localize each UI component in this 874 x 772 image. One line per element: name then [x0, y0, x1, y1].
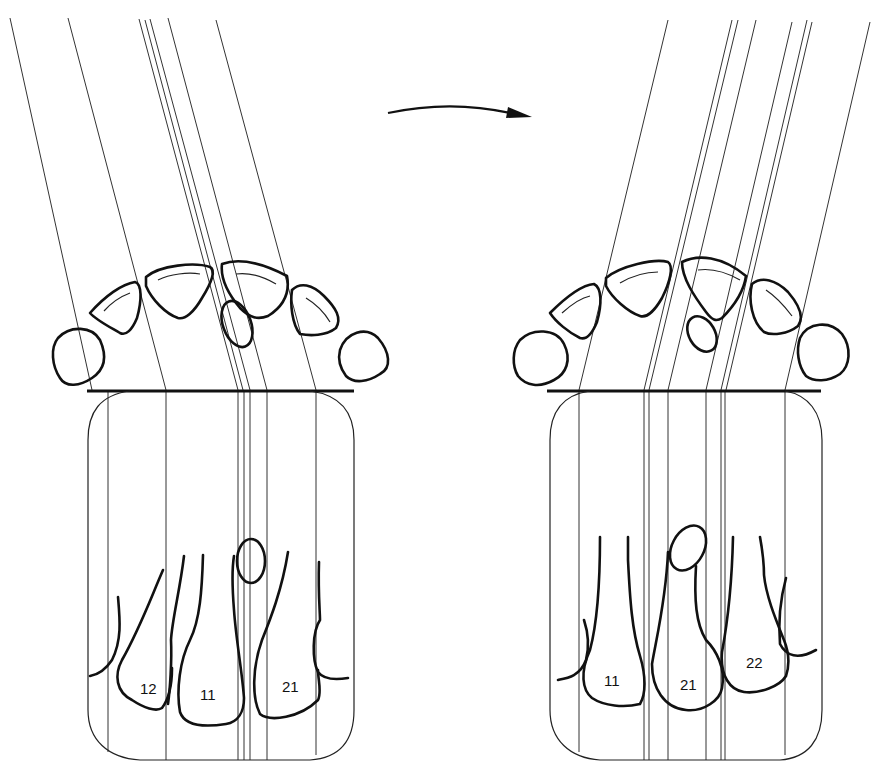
- supernumerary-tooth-occlusal: [681, 311, 723, 357]
- left-periapical-teeth: 12 11 21: [90, 539, 348, 726]
- diagram-canvas: 12 11 21: [0, 0, 874, 772]
- tooth-lateral-right: [90, 282, 141, 334]
- tooth-canine-left: [339, 332, 388, 381]
- tooth-canine-right: [53, 329, 104, 385]
- right-dental-arch: [514, 258, 849, 385]
- label-tooth-21: 21: [680, 676, 697, 693]
- tooth-central-right: [146, 265, 213, 319]
- tooth-central-right: [606, 261, 671, 316]
- label-tooth-21: 21: [282, 678, 299, 695]
- label-tooth-12: 12: [140, 680, 157, 697]
- tooth-lateral-left: [291, 285, 338, 335]
- label-tooth-11: 11: [604, 672, 620, 689]
- arrow-head-icon: [506, 107, 532, 118]
- left-panel: 12 11 21: [10, 18, 388, 760]
- tooth-canine-left: [798, 325, 849, 381]
- label-tooth-11: 11: [200, 686, 216, 703]
- arrow-shaft: [388, 106, 510, 113]
- tooth-central-left: [682, 258, 746, 320]
- label-tooth-22: 22: [746, 654, 763, 671]
- right-film-outline: [550, 391, 822, 760]
- tooth-lateral-right: [550, 284, 600, 338]
- right-panel: 11 21 22: [514, 20, 870, 760]
- tube-shift-arrow: [388, 106, 532, 118]
- left-x-ray-beams: [10, 18, 316, 760]
- tooth-lateral-left: [751, 280, 801, 334]
- tooth-central-left: [222, 261, 288, 318]
- supernumerary-tooth-periapical: [237, 539, 265, 583]
- right-periapical-teeth: 11 21 22: [558, 519, 816, 710]
- tooth-canine-right: [514, 331, 568, 384]
